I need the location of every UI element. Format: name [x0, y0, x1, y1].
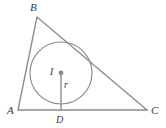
label-incenter-i: I — [50, 67, 53, 77]
geometry-figure: B A C I r D — [0, 0, 166, 128]
figure-canvas — [0, 0, 166, 128]
label-tangent-point-d: D — [56, 115, 63, 125]
label-vertex-a: A — [7, 105, 14, 116]
label-vertex-c: C — [151, 105, 158, 116]
label-radius-r: r — [64, 80, 68, 90]
label-vertex-b: B — [30, 2, 37, 13]
incenter-dot — [59, 71, 64, 76]
